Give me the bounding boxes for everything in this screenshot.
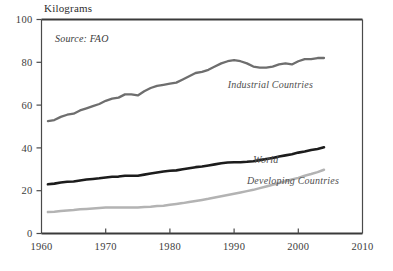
series-label-world: World bbox=[253, 154, 279, 165]
y-tick-label-100: 100 bbox=[16, 14, 33, 25]
series-label-developing-countries: Developing Countries bbox=[246, 175, 339, 186]
series-label-industrial-countries: Industrial Countries bbox=[227, 79, 313, 90]
x-tick-label-1970: 1970 bbox=[95, 241, 117, 252]
chart-container: 020406080100 196019701980199020002010 In… bbox=[0, 0, 393, 271]
chart-title: Kilograms bbox=[44, 2, 92, 14]
y-tick-label-20: 20 bbox=[21, 185, 32, 196]
source-note: Source: FAO bbox=[55, 33, 109, 44]
x-tick-label-2000: 2000 bbox=[287, 241, 309, 252]
x-tick-label-1990: 1990 bbox=[223, 241, 245, 252]
x-tick-label-1980: 1980 bbox=[159, 241, 181, 252]
y-tick-label-40: 40 bbox=[21, 143, 32, 154]
x-tick-label-2010: 2010 bbox=[351, 241, 373, 252]
x-tick-label-1960: 1960 bbox=[30, 241, 52, 252]
y-tick-label-80: 80 bbox=[21, 57, 32, 68]
line-chart: 020406080100 196019701980199020002010 In… bbox=[0, 0, 393, 271]
y-tick-label-60: 60 bbox=[21, 100, 32, 111]
y-tick-label-0: 0 bbox=[27, 228, 33, 239]
